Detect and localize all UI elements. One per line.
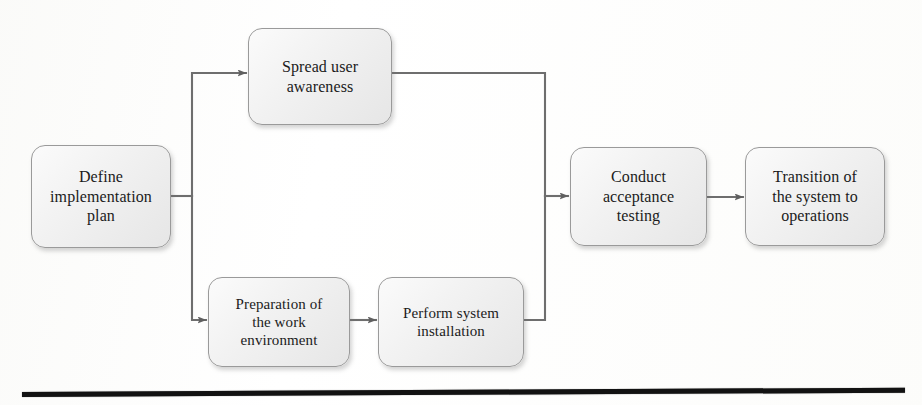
node-label: Perform system installation bbox=[396, 304, 506, 341]
node-label: Define implementation plan bbox=[43, 167, 159, 226]
node-label: Transition of the system to operations bbox=[765, 167, 865, 226]
node-preparation-of-the-work-environment[interactable]: Preparation of the work environment bbox=[208, 277, 350, 367]
node-label: Preparation of the work environment bbox=[229, 295, 330, 350]
node-conduct-acceptance-testing[interactable]: Conduct acceptance testing bbox=[570, 147, 707, 246]
node-define-implementation-plan[interactable]: Define implementation plan bbox=[31, 145, 171, 248]
connector-perform-installation-to-merge bbox=[524, 196, 545, 320]
node-perform-system-installation[interactable]: Perform system installation bbox=[378, 277, 524, 367]
node-label: Spread user awareness bbox=[275, 57, 365, 96]
connector-spread-awareness-to-merge bbox=[392, 73, 545, 196]
connector-split-to-spread-user-awareness bbox=[192, 73, 246, 196]
connector-split-to-preparation bbox=[192, 196, 206, 320]
node-transition-of-the-system-to-operations[interactable]: Transition of the system to operations bbox=[745, 147, 885, 246]
node-spread-user-awareness[interactable]: Spread user awareness bbox=[248, 28, 392, 125]
node-label: Conduct acceptance testing bbox=[596, 167, 681, 226]
flowchart-canvas: Define implementation plan Spread user a… bbox=[0, 0, 922, 405]
